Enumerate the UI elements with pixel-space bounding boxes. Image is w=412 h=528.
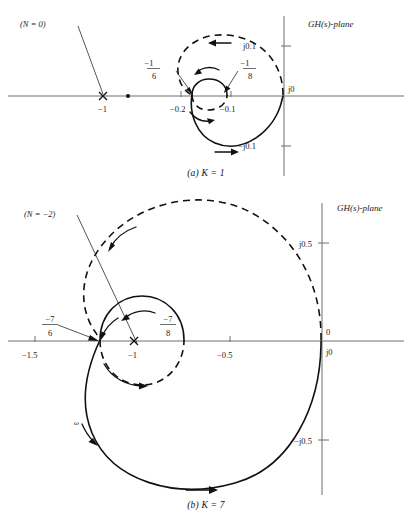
- plot-a-ytick-label-1: −j0.1: [238, 141, 256, 151]
- plot-b-xtick-label-1: −0.5: [217, 350, 232, 360]
- plot-a-encirclement-leader: [78, 26, 103, 94]
- plot-b-origin-label: 0: [326, 327, 330, 337]
- figure-page: (N = 0) GH(s)-plane −1 −0.2 −0.1 j0.1 −j…: [0, 0, 412, 528]
- plot-a-origin-label: j0: [287, 84, 295, 94]
- plot-b-critical-label: −1: [128, 350, 137, 360]
- plot-a-locus-dashed-outer: [178, 35, 283, 95]
- plot-a-callout-left: −1 6: [144, 58, 160, 81]
- plot-a-pole-dot: [126, 94, 130, 98]
- plot-b-origin-label-2: j0: [325, 347, 333, 357]
- plot-b-callout-left: −7 6: [42, 314, 58, 338]
- plot-b-callout-right: −7 8: [160, 314, 176, 338]
- plot-b-locus-solid-outer: [85, 340, 321, 489]
- plot-b-xtick-label-0: −1.5: [22, 350, 37, 360]
- plot-b-callout-left-denominator: 6: [48, 328, 52, 338]
- plot-b-ytick-label-0: j0.5: [298, 239, 312, 249]
- plot-b-arrow-inner-bottom: [104, 364, 148, 390]
- plot-b-plane-label: GH(s)-plane: [337, 203, 383, 213]
- plot-a-caption-prefix: (a): [187, 168, 199, 178]
- plot-a-critical-label: −1: [98, 104, 107, 114]
- plot-b-arrow-inner-top: [121, 311, 155, 321]
- plot-a-ytick-label-0: j0.1: [242, 41, 256, 51]
- nyquist-plot-b: (N = −2) GH(s)-plane −1.5 −1 −0.5 j0.5 −…: [0, 195, 412, 528]
- plot-a-arrow-bottom: [215, 149, 239, 156]
- plot-a-callout-left-numerator: −1: [144, 58, 153, 68]
- plot-a-callout-right-numerator: −1: [240, 58, 249, 68]
- plot-b-callout-right-denominator: 8: [166, 328, 170, 338]
- plot-a-callout-right: −1 8: [240, 58, 256, 81]
- plot-b-omega-label: ω: [74, 419, 79, 427]
- plot-b-callout-left-arrowhead: [88, 335, 99, 341]
- plot-b-encirclement-label: (N = −2): [24, 209, 55, 219]
- plot-a-caption: (a) K = 1: [0, 168, 412, 178]
- plot-b-arrow-upper-dashed: [108, 227, 136, 252]
- plot-a-caption-text: K = 1: [202, 168, 225, 178]
- plot-b-caption-prefix: (b): [187, 500, 199, 510]
- plot-a-encirclement-label: (N = 0): [20, 19, 46, 29]
- plot-a-arrow-top: [208, 40, 231, 47]
- plot-b-locus-dashed-outer: [84, 200, 321, 340]
- plot-b-callout-right-numerator: −7: [163, 314, 172, 324]
- plot-a-locus-solid-inner: [192, 79, 227, 95]
- nyquist-plot-a: (N = 0) GH(s)-plane −1 −0.2 −0.1 j0.1 −j…: [0, 0, 412, 200]
- plot-b-callout-left-leader: [58, 325, 92, 338]
- plot-b-svg: (N = −2) GH(s)-plane −1.5 −1 −0.5 j0.5 −…: [0, 195, 412, 528]
- plot-a-callout-right-denominator: 8: [248, 71, 252, 81]
- plot-a-xtick-label-0: −0.2: [170, 104, 185, 114]
- plot-b-callout-left-numerator: −7: [45, 314, 54, 324]
- plot-b-caption-text: K = 7: [202, 500, 225, 510]
- plot-b-encirclement-leader: [77, 215, 137, 343]
- plot-b-locus-dashed-inner: [100, 340, 184, 385]
- plot-b-ytick-label-1: −j0.5: [294, 436, 312, 446]
- plot-a-plane-label: GH(s)-plane: [308, 19, 354, 29]
- plot-a-arrow-inner-top: [194, 68, 219, 75]
- plot-b-caption: (b) K = 7: [0, 500, 412, 510]
- plot-a-callout-left-denominator: 6: [152, 71, 156, 81]
- plot-a-xtick-label-1: −0.1: [220, 104, 235, 114]
